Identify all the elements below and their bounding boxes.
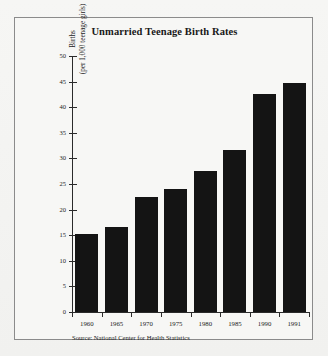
x-tick-label: 1960 — [72, 320, 102, 327]
x-tick-label: 1965 — [102, 320, 132, 327]
y-tick-label: 0 — [46, 308, 66, 315]
x-tick — [161, 312, 162, 317]
y-tick — [69, 107, 77, 108]
bar-1991 — [283, 83, 306, 312]
x-tick-label: 1990 — [250, 320, 280, 327]
y-tick — [69, 158, 77, 159]
x-tick-label: 1991 — [279, 320, 309, 327]
y-axis-title-line1: Births — [69, 0, 79, 114]
y-tick — [69, 133, 77, 134]
x-tick — [191, 312, 192, 317]
y-tick — [69, 82, 77, 83]
y-tick — [69, 184, 77, 185]
bar-1965 — [105, 227, 128, 313]
bar-1970 — [135, 197, 158, 312]
y-tick-label: 45 — [46, 78, 66, 85]
x-tick — [102, 312, 103, 317]
x-tick — [131, 312, 132, 317]
x-tick — [220, 312, 221, 317]
bar-1975 — [164, 189, 187, 312]
y-tick — [69, 312, 77, 313]
x-tick — [279, 312, 280, 317]
y-tick-label: 20 — [46, 206, 66, 213]
x-tick-label: 1985 — [220, 320, 250, 327]
x-tick — [250, 312, 251, 317]
bar-1980 — [194, 171, 217, 312]
bar-1990 — [253, 94, 276, 312]
y-tick-label: 25 — [46, 180, 66, 187]
x-tick-label: 1970 — [131, 320, 161, 327]
source-note: Source: National Center for Health Stati… — [72, 334, 190, 341]
y-tick-label: 50 — [46, 52, 66, 59]
y-tick-label: 35 — [46, 129, 66, 136]
y-tick — [69, 56, 77, 57]
y-tick-label: 40 — [46, 103, 66, 110]
x-tick — [309, 312, 310, 317]
plot-area: Births (per 1,000 teenage girls) 0510152… — [72, 56, 309, 313]
y-axis-title: Births (per 1,000 teenage girls) — [69, 0, 88, 114]
y-tick — [69, 210, 77, 211]
bar-1985 — [223, 150, 246, 312]
chart-title: Unmarried Teenage Birth Rates — [15, 26, 314, 37]
bar-1960 — [75, 234, 98, 312]
x-tick-label: 1980 — [191, 320, 221, 327]
x-tick — [72, 312, 73, 317]
y-tick-label: 15 — [46, 231, 66, 238]
x-tick-label: 1975 — [161, 320, 191, 327]
chart-frame: Unmarried Teenage Birth Rates Births (pe… — [14, 17, 313, 340]
y-tick-label: 5 — [46, 282, 66, 289]
y-tick-label: 30 — [46, 154, 66, 161]
y-axis-title-line2: (per 1,000 teenage girls) — [79, 0, 89, 114]
y-tick-label: 10 — [46, 257, 66, 264]
